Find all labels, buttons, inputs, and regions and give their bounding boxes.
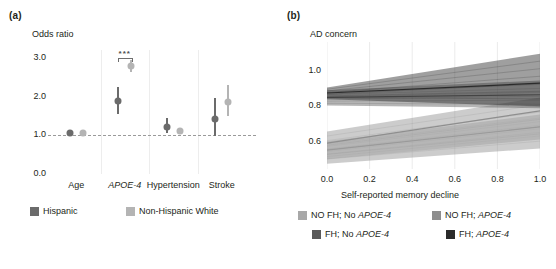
y-tick-label: 0.8 bbox=[287, 100, 321, 110]
panel-a: (a) Odds ratio *** 0.01.02.03.0 AgeAPOE-… bbox=[0, 0, 278, 269]
legend-swatch-nofh-apoe4 bbox=[432, 211, 441, 220]
significance-stars: *** bbox=[111, 49, 139, 58]
y-tick-label: 0.0 bbox=[10, 168, 46, 178]
x-tick-label: 1.0 bbox=[524, 174, 556, 184]
legend-item-fh-apoe4: FH; APOE-4 bbox=[446, 229, 509, 239]
data-point bbox=[79, 130, 86, 137]
y-tick-label: 0.6 bbox=[287, 136, 321, 146]
legend-label-hispanic: Hispanic bbox=[43, 206, 78, 216]
data-point bbox=[163, 123, 170, 130]
y-tick-label: 3.0 bbox=[10, 52, 46, 62]
y-tick-label: 2.0 bbox=[10, 91, 46, 101]
legend-item-nofh-apoe4: NO FH; APOE-4 bbox=[432, 210, 511, 220]
legend-label-nofh-apoe4: NO FH; APOE-4 bbox=[445, 210, 511, 220]
legend-swatch-non-hispanic-white bbox=[126, 207, 135, 216]
data-point bbox=[212, 115, 219, 122]
x-tick-label: 0.8 bbox=[481, 174, 513, 184]
significance-bracket bbox=[118, 58, 133, 62]
legend-item-fh-no-apoe4: FH; No APOE-4 bbox=[312, 229, 446, 239]
band-chart-canvas bbox=[327, 42, 540, 169]
data-point bbox=[128, 63, 135, 70]
legend-label-fh-apoe4: FH; APOE-4 bbox=[459, 229, 509, 239]
legend-label-fh-no-apoe4: FH; No APOE-4 bbox=[325, 229, 389, 239]
panel-a-axis-title: Odds ratio bbox=[32, 29, 74, 39]
data-point bbox=[66, 130, 73, 137]
category-separator bbox=[149, 50, 150, 174]
panel-b-legend: NO FH; No APOE-4 NO FH; APOE-4 FH; No AP… bbox=[298, 210, 548, 239]
category-separator bbox=[101, 50, 102, 174]
legend-swatch-hispanic bbox=[30, 207, 39, 216]
data-point bbox=[115, 98, 122, 105]
category-separator bbox=[198, 50, 199, 174]
panel-b-axis-title: AD concern bbox=[310, 29, 357, 39]
legend-item-hispanic: Hispanic bbox=[30, 206, 126, 216]
x-tick-label: 0.2 bbox=[354, 174, 386, 184]
x-tick-label: 0.4 bbox=[396, 174, 428, 184]
panel-b-tag: (b) bbox=[287, 10, 300, 21]
panel-a-tag: (a) bbox=[9, 10, 22, 21]
legend-label-non-hispanic-white: Non-Hispanic White bbox=[139, 206, 219, 216]
legend-item-non-hispanic-white: Non-Hispanic White bbox=[126, 206, 219, 216]
data-point bbox=[225, 98, 232, 105]
legend-item-nofh-no-apoe4: NO FH; No APOE-4 bbox=[298, 210, 432, 220]
panel-b: (b) AD concern 0.60.81.0 0.00.20.40.60.8… bbox=[278, 0, 556, 269]
legend-label-nofh-no-apoe4: NO FH; No APOE-4 bbox=[311, 210, 391, 220]
x-category-label: Stroke bbox=[187, 180, 257, 190]
panel-a-legend: Hispanic Non-Hispanic White bbox=[30, 206, 270, 216]
panel-b-plot-area bbox=[327, 42, 540, 169]
data-point bbox=[176, 128, 183, 135]
legend-swatch-nofh-no-apoe4 bbox=[298, 211, 307, 220]
y-tick-label: 1.0 bbox=[10, 129, 46, 139]
panel-a-plot-area: *** bbox=[52, 50, 246, 174]
y-tick-label: 1.0 bbox=[287, 65, 321, 75]
x-tick-label: 0.0 bbox=[311, 174, 343, 184]
legend-swatch-fh-no-apoe4 bbox=[312, 230, 321, 239]
figure-root: (a) Odds ratio *** 0.01.02.03.0 AgeAPOE-… bbox=[0, 0, 556, 269]
x-tick-label: 0.6 bbox=[439, 174, 471, 184]
panel-b-x-axis-label: Self-reported memory decline bbox=[341, 190, 459, 200]
legend-swatch-fh-apoe4 bbox=[446, 230, 455, 239]
